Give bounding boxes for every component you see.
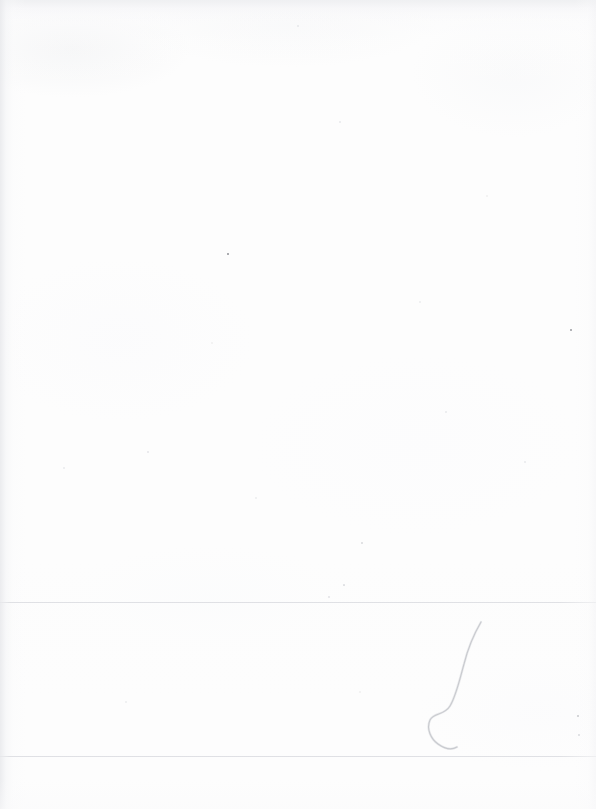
scanned-page [0, 0, 596, 809]
paper-surface [0, 0, 596, 809]
